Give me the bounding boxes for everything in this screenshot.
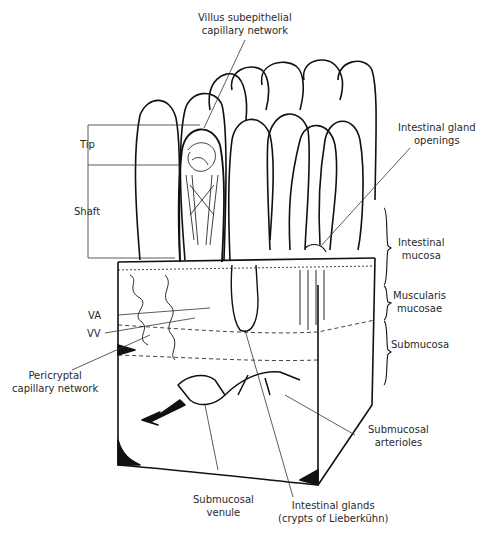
label-line: mucosae (393, 302, 446, 315)
label-line: arterioles (368, 436, 429, 449)
label-line: capillary network (12, 382, 98, 395)
label-line: Intestinal glands (278, 499, 388, 512)
villus-back-1 (180, 94, 226, 260)
intestinal-wall-illustration (0, 0, 477, 537)
label-va: VA (88, 309, 101, 322)
label-line: mucosa (398, 249, 445, 262)
label-submucosal-arterioles: Submucosal arterioles (368, 423, 429, 449)
villus-highlighted (179, 129, 224, 262)
villus-back-5 (304, 60, 343, 100)
label-line: Intestinal (398, 236, 445, 249)
label-line: openings (398, 134, 476, 147)
brace-muscularis (384, 286, 391, 320)
label-line: capillary network (198, 24, 292, 37)
label-submucosa: Submucosa (391, 338, 449, 351)
label-line: Intestinal gland (398, 121, 476, 134)
mucosa-surface (118, 258, 375, 262)
leader-lines (72, 40, 410, 497)
villus-front-2 (229, 119, 273, 260)
label-line: Villus subepithelial (198, 11, 292, 24)
brace-submucosa (384, 321, 391, 385)
label-muscularis-mucosae: Muscularis mucosae (393, 289, 446, 315)
villus-front-1 (135, 100, 180, 260)
label-pericryptal-capillary-network: Pericryptal capillary network (12, 369, 98, 395)
label-line: venule (193, 506, 254, 519)
block-front-face (118, 262, 318, 485)
label-vv: VV (87, 327, 101, 340)
layer-braces (384, 208, 391, 385)
label-intestinal-gland-openings: Intestinal gland openings (398, 121, 476, 147)
label-submucosal-venule: Submucosal venule (193, 493, 254, 519)
label-shaft: Shaft (74, 205, 100, 218)
block-right-face (318, 258, 375, 485)
label-intestinal-mucosa: Intestinal mucosa (398, 236, 445, 262)
label-line: (crypts of Lieberkühn) (278, 512, 388, 525)
crypt (231, 265, 258, 331)
outflow-arrow (142, 400, 185, 425)
submucosal-venule (178, 375, 225, 404)
label-line: Submucosal (368, 423, 429, 436)
label-line: Submucosal (193, 493, 254, 506)
label-line: Pericryptal (12, 369, 98, 382)
label-villus-subepithelial-capillary-network: Villus subepithelial capillary network (198, 11, 292, 37)
pericryptal-network (130, 275, 175, 360)
label-line: Muscularis (393, 289, 446, 302)
villus-capillary-network (186, 143, 218, 245)
label-tip: Tip (80, 138, 95, 151)
label-intestinal-glands: Intestinal glands (crypts of Lieberkühn) (278, 499, 388, 525)
brace-mucosa (384, 208, 391, 285)
villus-front-5 (319, 121, 363, 250)
villus-front-4 (289, 126, 336, 250)
